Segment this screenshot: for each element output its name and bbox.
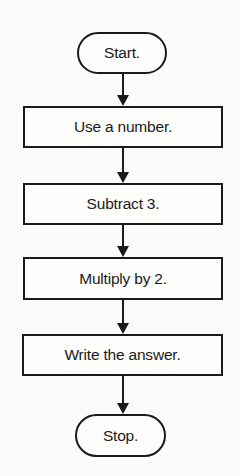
step-label: Multiply by 2. — [79, 270, 167, 288]
process-step-write-answer: Write the answer. — [22, 334, 223, 376]
step-label: Use a number. — [74, 118, 172, 136]
arrow-step3-to-step4 — [117, 299, 129, 334]
step-label: Write the answer. — [64, 346, 180, 364]
arrow-step4-to-stop — [117, 375, 129, 414]
arrow-step1-to-step2 — [117, 147, 129, 183]
process-step-use-number: Use a number. — [23, 106, 223, 148]
process-step-subtract: Subtract 3. — [23, 183, 223, 225]
arrow-step2-to-step3 — [117, 224, 129, 257]
stop-terminal: Stop. — [75, 414, 166, 457]
step-label: Subtract 3. — [87, 195, 160, 213]
arrow-start-to-step1 — [117, 73, 129, 106]
stop-label: Stop. — [103, 427, 138, 445]
process-step-multiply: Multiply by 2. — [23, 257, 223, 300]
start-terminal: Start. — [77, 32, 167, 74]
start-label: Start. — [104, 44, 140, 62]
